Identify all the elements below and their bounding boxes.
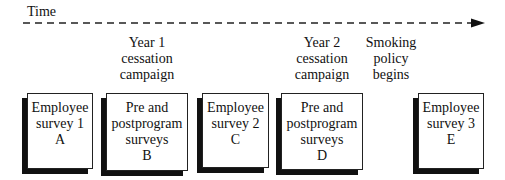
event-line: Smoking xyxy=(360,35,422,51)
box-survey-a: Employee survey 1 A xyxy=(27,93,93,169)
box-line: E xyxy=(419,132,483,148)
box-surveys-b: Pre and postprogram surveys B xyxy=(106,93,188,171)
box-line: surveys xyxy=(282,132,362,148)
box-line: survey 3 xyxy=(419,116,483,132)
event-year2-campaign: Year 2 cessation campaign xyxy=(282,35,362,83)
box-line: postprogram xyxy=(282,116,362,132)
time-arrow xyxy=(23,22,474,23)
event-line: campaign xyxy=(107,67,187,83)
box-line: Pre and xyxy=(107,100,187,116)
box-survey-c: Employee survey 2 C xyxy=(202,93,269,168)
box-line: D xyxy=(282,148,362,164)
box-surveys-d: Pre and postprogram surveys D xyxy=(281,93,363,170)
box-line: Employee xyxy=(419,100,483,116)
box-line: surveys xyxy=(107,132,187,148)
box-survey-e: Employee survey 3 E xyxy=(418,93,484,169)
dashed-arrow-icon xyxy=(23,17,488,29)
event-line: cessation xyxy=(282,51,362,67)
event-line: Year 1 xyxy=(107,35,187,51)
event-line: campaign xyxy=(282,67,362,83)
event-year1-campaign: Year 1 cessation campaign xyxy=(107,35,187,83)
event-line: begins xyxy=(360,67,422,83)
event-line: Year 2 xyxy=(282,35,362,51)
box-line: postprogram xyxy=(107,116,187,132)
event-smoking-policy: Smoking policy begins xyxy=(360,35,422,83)
event-line: policy xyxy=(360,51,422,67)
box-line: survey 1 xyxy=(28,116,92,132)
box-line: C xyxy=(203,132,268,148)
box-line: B xyxy=(107,148,187,164)
box-line: Employee xyxy=(28,100,92,116)
event-line: cessation xyxy=(107,51,187,67)
box-line: A xyxy=(28,132,92,148)
box-line: Employee xyxy=(203,100,268,116)
box-line: survey 2 xyxy=(203,116,268,132)
box-line: Pre and xyxy=(282,100,362,116)
